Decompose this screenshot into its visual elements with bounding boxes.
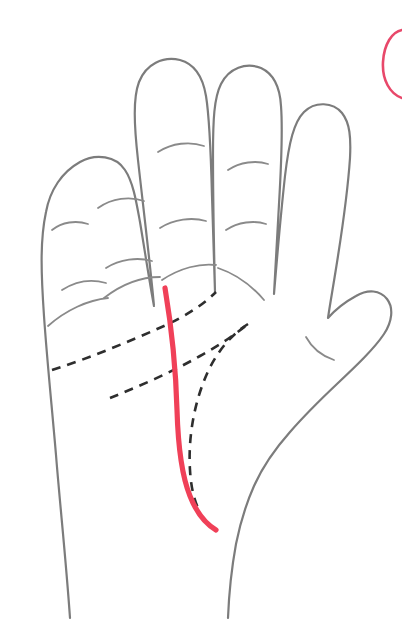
ring-lower-crease-icon bbox=[106, 259, 152, 268]
thumb-crease-icon bbox=[306, 337, 334, 360]
index-lower-crease-icon bbox=[226, 222, 266, 230]
middle-lower-crease-icon bbox=[160, 219, 206, 228]
fate-line-highlight bbox=[165, 288, 216, 530]
corner-circle-marker-icon bbox=[383, 30, 402, 98]
middle-upper-crease-icon bbox=[158, 143, 204, 152]
index-base-crease-icon bbox=[218, 268, 264, 300]
finger-creases-group bbox=[52, 143, 334, 360]
head-line bbox=[110, 324, 248, 398]
palmistry-illustration bbox=[0, 0, 402, 630]
palm-diagram-svg bbox=[0, 0, 402, 630]
index-upper-crease-icon bbox=[228, 162, 268, 170]
life-line bbox=[190, 324, 248, 512]
palm-lines-group bbox=[52, 292, 248, 512]
pinky-lower-crease-icon bbox=[62, 281, 106, 290]
middle-base-crease-icon bbox=[162, 265, 216, 280]
pinky-upper-crease-icon bbox=[52, 222, 88, 230]
knuckle-creases-group bbox=[48, 265, 264, 326]
hand-outline bbox=[42, 59, 392, 618]
pinky-base-crease-icon bbox=[48, 298, 108, 326]
heart-line bbox=[52, 292, 216, 370]
